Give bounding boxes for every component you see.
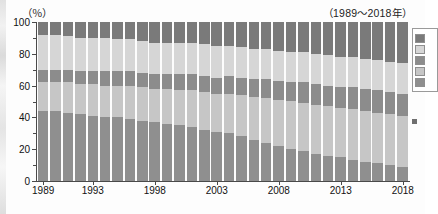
y-minor-tick [33, 38, 36, 39]
bar-segment-series-2 [323, 106, 334, 155]
bar-stack [63, 22, 74, 181]
bar-2016 [372, 22, 384, 181]
bar-segment-series-1 [137, 121, 148, 181]
legend-swatch [415, 56, 425, 65]
bar-segment-series-1 [273, 146, 284, 181]
stacked-bars [37, 22, 409, 181]
bar-segment-series-3 [112, 71, 123, 85]
legend-item[interactable] [415, 33, 435, 43]
bar-segment-series-2 [174, 90, 185, 125]
bar-segment-series-4 [360, 59, 371, 89]
bar-segment-series-5 [174, 22, 185, 43]
bar-stack [372, 22, 383, 181]
plot-area: 020406080100 198919931998200320082013201… [37, 22, 409, 181]
bar-segment-series-5 [125, 22, 136, 39]
bar-segment-series-3 [187, 74, 198, 90]
bar-segment-series-5 [311, 22, 322, 54]
bar-segment-series-5 [261, 22, 272, 49]
bar-segment-series-5 [50, 22, 61, 35]
bar-segment-series-4 [88, 38, 99, 71]
bar-segment-series-2 [224, 94, 235, 134]
bar-segment-series-1 [38, 111, 49, 181]
bar-stack [38, 22, 49, 181]
bar-segment-series-1 [63, 113, 74, 181]
bar-segment-series-5 [286, 22, 297, 52]
bar-1995 [111, 22, 123, 181]
bar-stack [211, 22, 222, 181]
chart-period-label: （1989～2018年） [323, 5, 412, 20]
bar-segment-series-3 [385, 92, 396, 114]
legend-item[interactable] [415, 66, 435, 76]
bar-2009 [285, 22, 297, 181]
bar-segment-series-1 [348, 160, 359, 181]
bar-segment-series-5 [385, 22, 396, 62]
legend-side-note [412, 118, 418, 125]
bar-segment-series-3 [162, 74, 173, 88]
bar-segment-series-5 [236, 22, 247, 47]
bar-segment-series-3 [63, 70, 74, 83]
bar-stack [125, 22, 136, 181]
scan-edge-artifact [0, 0, 6, 214]
bar-segment-series-1 [211, 132, 222, 181]
x-tick-label: 1993 [82, 185, 104, 196]
bar-segment-series-4 [311, 54, 322, 84]
chart-legend [412, 28, 438, 92]
bar-stack [335, 22, 346, 181]
bar-segment-series-1 [50, 111, 61, 181]
bar-segment-series-2 [236, 95, 247, 136]
bar-1996 [124, 22, 136, 181]
bar-segment-series-2 [149, 89, 160, 122]
bar-segment-series-1 [335, 157, 346, 181]
bar-1997 [136, 22, 148, 181]
bar-2014 [347, 22, 359, 181]
bar-segment-series-5 [63, 22, 74, 36]
bar-segment-series-5 [211, 22, 222, 46]
bar-stack [236, 22, 247, 181]
bar-segment-series-2 [385, 114, 396, 165]
x-tick-label: 2013 [330, 185, 352, 196]
note-swatch [412, 119, 417, 124]
bar-segment-series-2 [38, 82, 49, 111]
legend-item[interactable] [415, 44, 435, 54]
bar-segment-series-2 [261, 98, 272, 143]
bar-segment-series-2 [211, 94, 222, 132]
bar-segment-series-5 [397, 22, 408, 63]
bar-segment-series-3 [397, 94, 408, 116]
bar-segment-series-3 [372, 90, 383, 112]
y-minor-tick [33, 165, 36, 166]
bar-segment-series-4 [348, 57, 359, 87]
bar-1999 [161, 22, 173, 181]
bar-segment-series-1 [100, 117, 111, 181]
bar-segment-series-3 [261, 79, 272, 98]
bar-segment-series-1 [385, 165, 396, 181]
bar-2018 [396, 22, 408, 181]
bar-segment-series-2 [348, 109, 359, 160]
bar-segment-series-4 [286, 52, 297, 82]
y-tick-label: 60 [19, 80, 30, 91]
bar-segment-series-1 [311, 154, 322, 181]
bar-segment-series-2 [286, 101, 297, 149]
bar-segment-series-1 [236, 136, 247, 181]
bar-segment-series-4 [372, 60, 383, 90]
bar-segment-series-2 [187, 90, 198, 127]
bar-stack [199, 22, 210, 181]
bar-segment-series-3 [199, 76, 210, 92]
bar-segment-series-3 [273, 81, 284, 100]
bar-stack [348, 22, 359, 181]
bar-stack [75, 22, 86, 181]
legend-item[interactable] [415, 77, 435, 87]
bar-stack [88, 22, 99, 181]
bar-segment-series-4 [249, 49, 260, 79]
bar-1992 [74, 22, 86, 181]
bar-segment-series-4 [174, 43, 185, 75]
bar-segment-series-3 [211, 78, 222, 94]
bar-segment-series-4 [50, 35, 61, 70]
legend-item[interactable] [415, 55, 435, 65]
bar-stack [286, 22, 297, 181]
bar-1991 [62, 22, 74, 181]
bar-2003 [210, 22, 222, 181]
bar-segment-series-4 [162, 43, 173, 75]
bar-segment-series-5 [323, 22, 334, 55]
bar-2000 [173, 22, 185, 181]
bar-segment-series-3 [311, 84, 322, 105]
